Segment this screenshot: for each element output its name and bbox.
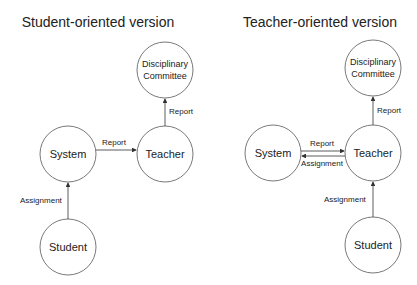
node-teacher: Teacher [137,126,193,182]
svg-text:System: System [50,148,87,160]
svg-text:Student: Student [354,239,392,251]
svg-text:Student: Student [49,241,87,253]
svg-text:Report: Report [377,106,402,115]
svg-text:Disciplinary: Disciplinary [350,57,397,67]
edge-student-to-teacher: Assignment [324,182,373,217]
edge-teacher-to-disciplinary: Report [373,97,402,125]
svg-text:Assignment: Assignment [20,196,63,205]
right-diagram: Disciplinary Committee System Teacher St… [245,40,402,273]
node-disciplinary-committee: Disciplinary Committee [137,42,193,98]
edge-system-to-teacher: Report [301,139,344,151]
svg-text:System: System [255,147,292,159]
svg-text:Report: Report [310,139,335,148]
left-diagram: Disciplinary Committee System Teacher St… [20,42,194,275]
diagram-canvas: Disciplinary Committee System Teacher St… [0,0,417,285]
node-disciplinary-committee: Disciplinary Committee [345,40,401,96]
svg-text:Disciplinary: Disciplinary [142,59,189,69]
edge-teacher-to-system: Assignment [301,156,345,168]
node-teacher: Teacher [345,125,401,181]
edge-student-to-system: Assignment [20,183,68,219]
svg-text:Assignment: Assignment [324,195,367,204]
svg-text:Report: Report [169,107,194,116]
node-student: Student [40,219,96,275]
edge-system-to-teacher: Report [96,138,136,150]
node-system: System [245,125,301,181]
svg-text:Teacher: Teacher [353,147,392,159]
node-system: System [40,126,96,182]
node-student: Student [345,217,401,273]
svg-text:Report: Report [102,138,127,147]
svg-text:Teacher: Teacher [145,148,184,160]
edge-teacher-to-disciplinary: Report [165,99,194,126]
svg-text:Assignment: Assignment [301,159,344,168]
svg-text:Committee: Committee [143,71,187,81]
svg-text:Committee: Committee [351,69,395,79]
